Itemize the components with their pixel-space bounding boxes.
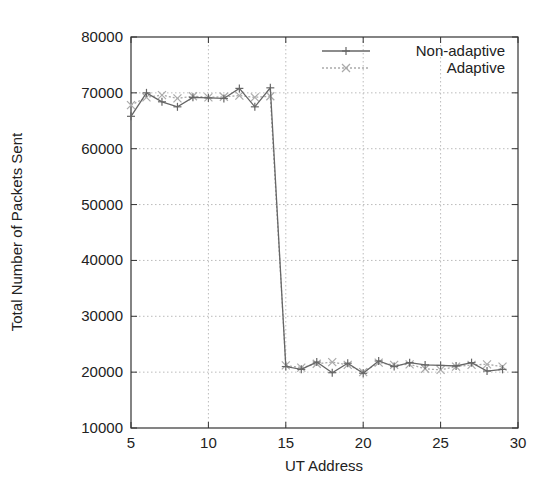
series-non-adaptive xyxy=(127,84,507,377)
legend-item: Non-adaptive xyxy=(322,42,505,59)
y-tick-label: 40000 xyxy=(81,251,123,268)
legend-item: Adaptive xyxy=(322,59,505,76)
x-tick-label: 25 xyxy=(432,434,449,451)
y-tick-label: 50000 xyxy=(81,196,123,213)
series-adaptive xyxy=(127,91,507,376)
x-tick-label: 15 xyxy=(277,434,294,451)
y-tick-label: 80000 xyxy=(81,28,123,45)
x-tick-label: 5 xyxy=(127,434,135,451)
y-tick-label: 30000 xyxy=(81,307,123,324)
line-chart: 51015202530 1000020000300004000050000600… xyxy=(0,0,558,503)
x-tick-label: 10 xyxy=(200,434,217,451)
y-tick-label: 70000 xyxy=(81,84,123,101)
y-tick-label: 60000 xyxy=(81,140,123,157)
x-axis-ticks: 51015202530 xyxy=(127,37,527,451)
legend-label: Non-adaptive xyxy=(416,42,505,59)
grid-lines xyxy=(131,37,518,428)
plot-frame xyxy=(131,37,518,428)
legend-label: Adaptive xyxy=(447,59,505,76)
x-axis-label: UT Address xyxy=(285,457,363,474)
y-tick-label: 20000 xyxy=(81,363,123,380)
y-tick-label: 10000 xyxy=(81,419,123,436)
legend: Non-adaptiveAdaptive xyxy=(322,42,505,76)
data-series xyxy=(127,84,507,377)
x-tick-label: 20 xyxy=(355,434,372,451)
x-tick-label: 30 xyxy=(510,434,527,451)
y-axis-label: Total Number of Packets Sent xyxy=(8,132,25,331)
